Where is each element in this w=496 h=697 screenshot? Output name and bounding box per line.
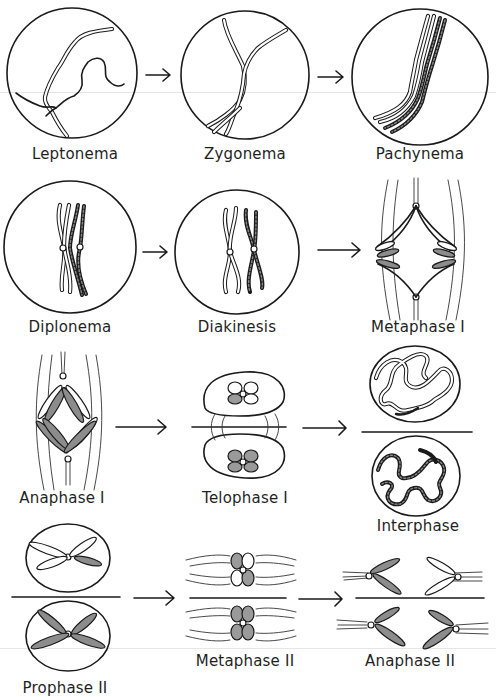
stage-label-prophase-2: Prophase II: [23, 679, 108, 697]
anaphase-2-chromosomes: [337, 555, 488, 652]
diplonema-cell: [4, 181, 136, 313]
arrow-right-icon: [116, 420, 166, 434]
zygonema-cell: [181, 11, 309, 139]
stage-label-metaphase-2: Metaphase II: [196, 652, 295, 670]
pachynema-cell: [352, 9, 488, 145]
stage-label-diplonema: Diplonema: [29, 318, 112, 336]
arrow-right-icon: [299, 592, 342, 606]
stage-label-zygonema: Zygonema: [204, 145, 286, 163]
stage-label-pachynema: Pachynema: [376, 145, 465, 163]
arrow-right-icon: [303, 421, 346, 435]
metaphase-1-spindle: [375, 178, 465, 320]
stage-label-telophase-1: Telophase I: [202, 489, 288, 507]
diakinesis-cell: [175, 190, 299, 314]
stage-label-leptonema: Leptonema: [32, 145, 118, 163]
arrow-right-icon: [318, 243, 360, 257]
leptonema-cell: [7, 8, 137, 138]
telophase-1-cells: [192, 372, 286, 478]
metaphase-2-cells: [186, 553, 296, 641]
stage-label-interphase: Interphase: [377, 517, 459, 535]
interphase-nuclei: [362, 346, 472, 516]
anaphase-1-spindle: [34, 352, 102, 490]
prophase-2-cells: [12, 524, 120, 671]
arrow-right-icon: [143, 246, 167, 258]
stage-label-anaphase-2: Anaphase II: [365, 652, 455, 670]
stage-label-anaphase-1: Anaphase I: [19, 489, 104, 507]
arrow-right-icon: [134, 591, 174, 605]
stage-label-diakinesis: Diakinesis: [198, 318, 276, 336]
arrow-right-icon: [318, 71, 343, 83]
arrow-right-icon: [146, 69, 170, 81]
stage-label-metaphase-1: Metaphase I: [371, 318, 465, 336]
